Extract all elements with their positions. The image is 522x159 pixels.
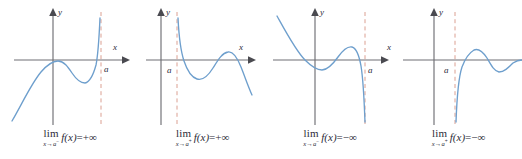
function-expression: f(x) (321, 131, 336, 143)
y-axis-label: y (319, 7, 324, 17)
panel-1-caption: lim x→a− f(x)=+∞ (0, 128, 140, 148)
x-axis-label: x (386, 42, 391, 52)
function-curve (178, 18, 252, 95)
limit-subscript: x→a+ (176, 139, 192, 148)
vertical-asymptote: a (365, 12, 373, 126)
panel-1-plot: x y a (0, 0, 140, 128)
limit-sub-sign: + (189, 138, 192, 144)
limit-panel-3: x y a lim x→a− f(x)=−∞ (265, 0, 395, 159)
panel-3-caption: lim x→a− f(x)=−∞ (265, 128, 395, 148)
limit-sub-sign: − (316, 138, 319, 144)
y-axis-label: y (165, 7, 170, 17)
limit-operator-block: lim x→a− (303, 128, 319, 148)
limit-subscript: x→a− (303, 139, 319, 148)
panel-4-caption: lim x→a+ f(x)=−∞ (395, 128, 522, 148)
x-axis: x (273, 42, 391, 64)
vertical-asymptote: a (444, 12, 455, 126)
limit-result: +∞ (83, 131, 97, 143)
x-axis-label: x (112, 42, 117, 52)
limit-panel-2: x y a lim x→a+ f(x)=+∞ (140, 0, 265, 159)
y-axis-label: y (438, 7, 443, 17)
vertical-asymptote: a (101, 12, 109, 126)
y-axis: y (49, 7, 62, 125)
x-axis: x (395, 42, 522, 60)
infinite-limits-figure: x y a lim x→a− f(x)=+∞ (0, 0, 522, 159)
limit-subscript: x→a− (43, 139, 59, 148)
limit-sub-arrow: → (306, 140, 313, 147)
panel-4-plot: x y a (395, 0, 522, 128)
asymptote-label: a (444, 65, 449, 75)
panel-2-caption: lim x→a+ f(x)=+∞ (140, 128, 265, 148)
x-axis: x (14, 42, 130, 64)
limit-operator-block: lim x→a+ (432, 128, 448, 148)
limit-subscript: x→a+ (432, 139, 448, 148)
limit-result: −∞ (471, 131, 485, 143)
function-curve (12, 18, 100, 121)
y-axis: y (430, 7, 443, 125)
panel-3-plot: x y a (265, 0, 395, 128)
asymptote-label: a (104, 64, 109, 74)
limit-panel-1: x y a lim x→a− f(x)=+∞ (0, 0, 140, 159)
function-expression: f(x) (450, 131, 465, 143)
limit-result: +∞ (215, 131, 229, 143)
y-axis-label: y (57, 7, 62, 17)
function-expression: f(x) (194, 131, 209, 143)
function-expression: f(x) (61, 131, 76, 143)
panel-2-plot: x y a (140, 0, 265, 128)
vertical-asymptote: a (167, 12, 177, 126)
asymptote-label: a (368, 65, 373, 75)
asymptote-label: a (167, 65, 172, 75)
limit-operator-block: lim x→a− (43, 128, 59, 148)
limit-operator-block: lim x→a+ (176, 128, 192, 148)
function-curve (277, 16, 365, 122)
limit-result: −∞ (343, 131, 357, 143)
limit-sub-sign: − (56, 138, 59, 144)
x-axis-label: x (238, 42, 243, 52)
limit-sub-sign: + (445, 138, 448, 144)
x-axis: x (146, 42, 256, 64)
limit-sub-arrow: → (46, 140, 53, 147)
limit-panel-4: x y a lim x→a+ f(x)=−∞ (395, 0, 522, 159)
